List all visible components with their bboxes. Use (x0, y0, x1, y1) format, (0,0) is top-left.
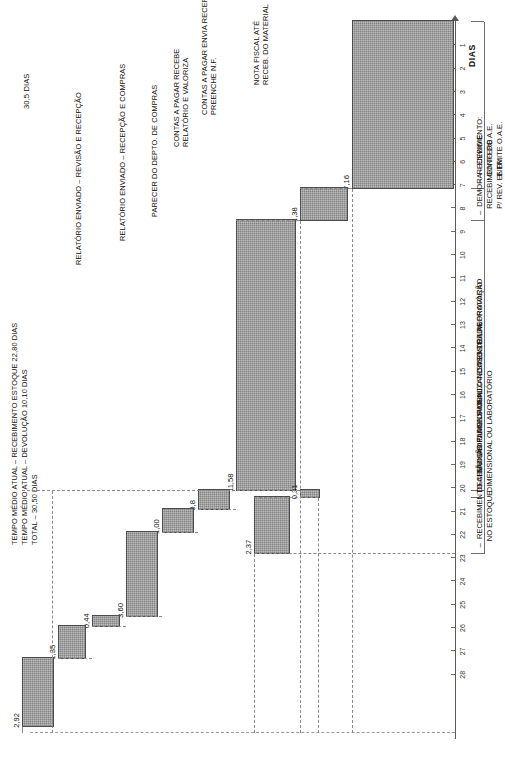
axis-tick-label: 22 (459, 528, 466, 542)
level-leader-line (352, 189, 353, 733)
axis-tick (451, 301, 455, 302)
level-leader-line (52, 491, 53, 733)
axis-tick (451, 277, 455, 278)
group-separator (471, 21, 484, 22)
axis-tick-label: 17 (459, 411, 466, 425)
axis-tick (451, 557, 455, 558)
axis-tick-label: 21 (459, 505, 466, 519)
level-leader-line (254, 554, 255, 733)
axis-tick-label: 11 (459, 271, 466, 285)
axis-tick-label: 1 (459, 38, 466, 52)
axis-tick-label: 25 (459, 598, 466, 612)
step-leader-line (198, 509, 236, 510)
axis-tick (451, 417, 455, 418)
axis-tick (451, 580, 455, 581)
step-leader-line (254, 497, 318, 498)
axis-tick-label: 20 (459, 481, 466, 495)
bar (126, 531, 158, 617)
level-leader-line (300, 221, 301, 733)
bar-annotation-5: NOTA FISCAL ATÉ RECEB. DO MATERIAL (252, 4, 271, 85)
axis-tick-label: 15 (459, 365, 466, 379)
axis-tick (451, 674, 455, 675)
step-leader-line (22, 490, 300, 491)
level-leader-line (318, 498, 319, 733)
bar (198, 489, 230, 510)
axis-tick (451, 394, 455, 395)
axis-tick (451, 254, 455, 255)
step-leader-line (92, 626, 126, 627)
header-line-2: TEMPO MÉDIO ATUAL – DEVOLUÇÃO 10,10 DIAS (20, 369, 29, 545)
bar (254, 496, 290, 553)
axis-tick-label: 5 (459, 132, 466, 146)
bar (22, 657, 54, 727)
step-leader-line (162, 532, 198, 533)
axis-tick-label: 9 (459, 225, 466, 239)
axis-tick (451, 231, 455, 232)
bar (58, 625, 86, 658)
axis-tick (451, 534, 455, 535)
bar-annotation-0: RELATÓRIO ENVIADO – REVISÃO E RECEPÇÃO (74, 92, 83, 265)
axis-tick-label: 28 (459, 668, 466, 682)
axis-tick (451, 208, 455, 209)
bar (300, 187, 348, 221)
axis-tick-label: 2 (459, 62, 466, 76)
total-marker-line (30, 732, 455, 733)
group-label: – DEMORA – ENVIO E RECEBIMENTO DO A.E. P… (475, 193, 505, 215)
bar-value-label: 2,37 (244, 540, 253, 555)
axis-tick (451, 511, 455, 512)
bar-value-label: 2,92 (12, 713, 21, 728)
axis-tick-label: 23 (459, 551, 466, 565)
group-separator (471, 220, 484, 221)
axis-tick (451, 604, 455, 605)
axis-tick-label: 14 (459, 341, 466, 355)
header-line-1: TEMPO MÉDIO ATUAL – RECEBIMENTO ESTOQUE … (10, 323, 19, 545)
axis-tick-label: 16 (459, 388, 466, 402)
bar-annotation-3: CONTAS A PAGAR RECEBE RELATÓRIO E VALORI… (172, 49, 191, 147)
axis-tick-label: 3 (459, 85, 466, 99)
level-leader-line (22, 727, 23, 733)
axis-tick (451, 441, 455, 442)
bar (162, 508, 194, 533)
bar (352, 20, 454, 189)
axis-tick-label: 6 (459, 155, 466, 169)
axis-tick-label: 18 (459, 435, 466, 449)
axis-tick (451, 324, 455, 325)
step-leader-line (236, 220, 300, 221)
axis-tick-label: 19 (459, 458, 466, 472)
step-leader-line (126, 616, 162, 617)
axis-tick-label: 4 (459, 108, 466, 122)
axis-tick-label: 10 (459, 248, 466, 262)
step-leader-line (254, 553, 455, 554)
axis-tick (451, 487, 455, 488)
bar-annotation-4: CONTAS A PAGAR ENVIA RECEPÇÃO PREENCHE N… (200, 0, 219, 115)
value-axis-line (455, 19, 456, 739)
axis-tick-label: 13 (459, 318, 466, 332)
axis-tick-label: 26 (459, 621, 466, 635)
axis-tick-label: 27 (459, 644, 466, 658)
axis-tick-label: 8 (459, 202, 466, 216)
axis-tick (451, 464, 455, 465)
axis-tick-label: 12 (459, 295, 466, 309)
bar-annotation-1: RELATÓRIO ENVIADO – RECEPÇÃO E COMPRAS (118, 64, 127, 241)
axis-tick-label: 24 (459, 574, 466, 588)
axis-tick (451, 627, 455, 628)
bar-annotation-2: PARECER DO DEPTO. DE COMPRAS (150, 85, 159, 217)
header-line-3: TOTAL – 30,50 DIAS (30, 474, 39, 545)
total-annotation: 30,5 DIAS (22, 73, 31, 109)
bar (236, 219, 296, 491)
axis-tick (451, 371, 455, 372)
group-bracket-rail (484, 22, 485, 554)
axis-tick-label: 7 (459, 178, 466, 192)
axis-tick (451, 347, 455, 348)
group-separator (471, 553, 484, 554)
step-leader-line (58, 658, 92, 659)
group-label: – RECEBIMENTO ALMOXARIFADO OFICIALIZANDO… (475, 502, 495, 547)
axis-tick (451, 650, 455, 651)
step-leader-line (300, 188, 352, 189)
